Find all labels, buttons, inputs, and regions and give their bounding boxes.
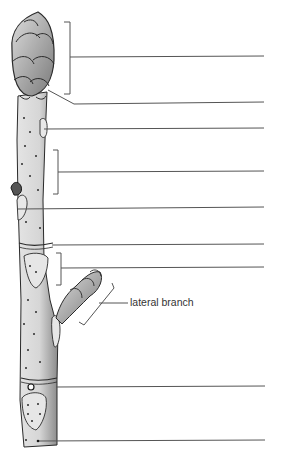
bracket-bud-scale [56,253,61,285]
leader-line-1 [70,56,264,57]
leader-line-5 [18,207,264,209]
lateral-branch [56,270,102,324]
leader-line-2 [48,90,264,104]
twig-diagram [0,0,284,476]
leader-line-9 [38,440,265,441]
leader-line-3 [44,128,264,129]
terminal-bud [12,12,54,99]
leader-line-7 [61,267,264,268]
leader-line-4 [58,171,264,172]
leader-line-8 [56,386,265,387]
lateral-bud-small [11,182,22,195]
bracket-terminal-bud [64,22,70,94]
label-lateral-branch: lateral branch [130,296,194,308]
leader-dot-9 [37,440,40,443]
bracket-internode [53,150,58,194]
leader-line-6 [52,244,264,245]
